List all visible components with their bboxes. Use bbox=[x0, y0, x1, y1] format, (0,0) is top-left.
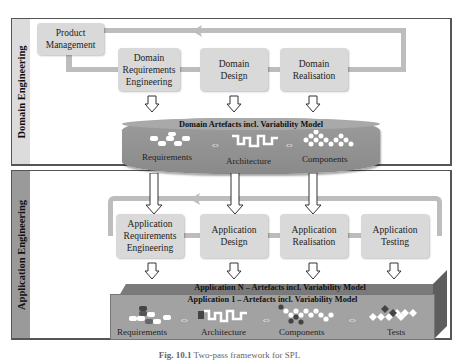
domain-connector-loop-right bbox=[401, 28, 406, 72]
domain-requirements-label: Requirements bbox=[142, 152, 192, 162]
requirements-glyph-icon bbox=[127, 305, 175, 327]
app-requirements-label: Requirements bbox=[117, 327, 167, 337]
domain-engineering-side-label: Domain Engineering bbox=[12, 19, 30, 164]
app-architecture-label: Architecture bbox=[201, 327, 246, 337]
architecture-glyph-icon bbox=[230, 132, 280, 150]
application-design-box[interactable]: Application Design bbox=[200, 214, 268, 258]
loop-arrowhead-icon bbox=[190, 24, 204, 38]
domain-architecture-label: Architecture bbox=[226, 156, 271, 166]
arrow-down-icon bbox=[305, 95, 321, 113]
requirements-glyph-icon bbox=[148, 132, 198, 150]
arrow-down-icon bbox=[226, 95, 242, 113]
bidirectional-arrow-icon: ⇔ bbox=[261, 313, 272, 325]
application-requirements-engineering-box[interactable]: Application Requirements Engineering bbox=[116, 214, 184, 258]
application-n-artefacts-title: Application N – Artefacts incl. Variabil… bbox=[110, 283, 450, 292]
tests-glyph-icon bbox=[365, 303, 423, 325]
loop-arrowhead-icon bbox=[188, 192, 202, 206]
application-testing-box[interactable]: Application Testing bbox=[361, 214, 429, 258]
arrow-down-icon bbox=[144, 262, 160, 280]
components-glyph-icon bbox=[277, 303, 339, 327]
domain-to-application-arrow-icon bbox=[145, 173, 163, 215]
arrow-down-icon bbox=[144, 95, 160, 113]
figure-caption: Fig. 10.1 Two-pass framework for SPL bbox=[0, 350, 459, 360]
application-1-artefacts-store[interactable]: Application 1 – Artefacts incl. Variabil… bbox=[110, 294, 435, 340]
bidirectional-arrow-icon: ⇔ bbox=[347, 313, 358, 325]
architecture-glyph-icon bbox=[197, 307, 249, 325]
bidirectional-arrow-icon: ⇔ bbox=[284, 138, 295, 150]
domain-artefacts-store[interactable]: Domain Artefacts incl. Variability Model… bbox=[122, 118, 380, 174]
product-management-box[interactable]: Product Management bbox=[37, 23, 104, 55]
bidirectional-arrow-icon: ⇔ bbox=[210, 138, 221, 150]
domain-to-application-arrow-icon bbox=[226, 173, 244, 215]
figure-caption-text: Two-pass framework for SPL bbox=[194, 350, 301, 360]
arrow-down-icon bbox=[386, 262, 402, 280]
domain-to-application-arrow-icon bbox=[304, 173, 322, 215]
application-engineering-side-label: Application Engineering bbox=[12, 171, 30, 338]
domain-design-box[interactable]: Domain Design bbox=[200, 48, 268, 91]
domain-requirements-engineering-box[interactable]: Domain Requirements Engineering bbox=[118, 48, 180, 91]
domain-realisation-box[interactable]: Domain Realisation bbox=[280, 48, 348, 91]
app-tests-label: Tests bbox=[387, 327, 405, 337]
arrow-down-icon bbox=[305, 262, 321, 280]
bidirectional-arrow-icon: ⇔ bbox=[179, 313, 190, 325]
application-realisation-box[interactable]: Application Realisation bbox=[280, 214, 348, 258]
app-components-label: Components bbox=[279, 327, 325, 337]
domain-artefacts-title: Domain Artefacts incl. Variability Model bbox=[122, 120, 380, 129]
figure-number: Fig. 10.1 bbox=[159, 350, 192, 360]
domain-components-label: Components bbox=[302, 154, 348, 164]
arrow-down-icon bbox=[226, 262, 242, 280]
components-glyph-icon bbox=[302, 130, 360, 152]
